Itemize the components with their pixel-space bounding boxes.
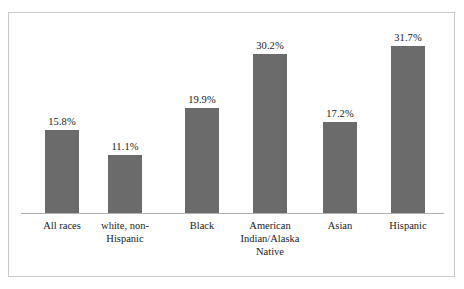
- bar-american-indian-alaska-native[interactable]: [253, 54, 287, 213]
- bar-hispanic[interactable]: [391, 46, 425, 213]
- bar-value-label-american-indian-alaska-native: 30.2%: [235, 40, 305, 52]
- category-label-line: Hispanic: [365, 219, 451, 232]
- bar-value-label-white-non-hispanic: 11.1%: [90, 141, 160, 153]
- bar-value-label-black: 19.9%: [167, 94, 237, 106]
- bar-all-races[interactable]: [45, 130, 79, 213]
- category-label-white-non-hispanic: white, non- Hispanic: [82, 219, 168, 245]
- bar-value-label-asian: 17.2%: [305, 108, 375, 120]
- bar-value-label-all-races: 15.8%: [27, 116, 97, 128]
- category-label-line: Hispanic: [82, 232, 168, 245]
- bar-asian[interactable]: [323, 122, 357, 213]
- category-label-line: white, non-: [82, 219, 168, 232]
- bar-value-label-hispanic: 31.7%: [373, 32, 443, 44]
- chart-frame: 15.8% All races 11.1% white, non- Hispan…: [8, 12, 455, 277]
- category-label-hispanic: Hispanic: [365, 219, 451, 232]
- category-label-line: Indian/Alaska: [227, 232, 313, 245]
- plot-area: 15.8% All races 11.1% white, non- Hispan…: [9, 13, 454, 276]
- category-label-line: Native: [227, 245, 313, 258]
- x-axis-line: [21, 213, 444, 214]
- bar-black[interactable]: [185, 108, 219, 213]
- bar-white-non-hispanic[interactable]: [108, 155, 142, 213]
